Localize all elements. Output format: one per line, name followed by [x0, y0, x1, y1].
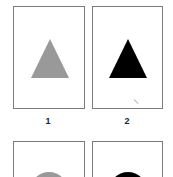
card-1-label: 1 — [38, 116, 58, 126]
gray-circle-icon — [30, 172, 68, 177]
card-3 — [13, 141, 85, 177]
card-2 — [92, 6, 163, 109]
gray-triangle-icon — [31, 39, 69, 78]
black-triangle-icon — [109, 39, 147, 78]
card-4 — [92, 141, 163, 177]
card-2-label: 2 — [117, 116, 137, 126]
scratch-mark — [134, 99, 139, 104]
black-circle-icon — [109, 172, 147, 177]
card-1 — [13, 6, 85, 109]
